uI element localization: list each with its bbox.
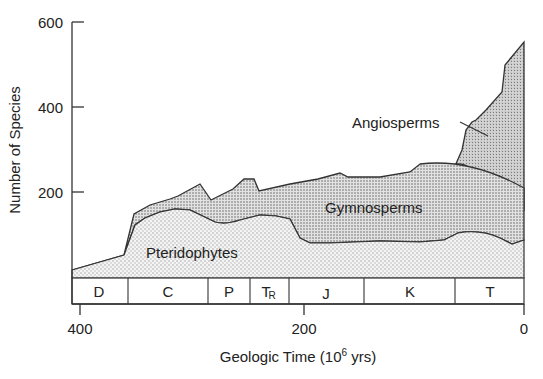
y-axis: 600 400 200 Number of Species	[6, 14, 84, 304]
period-cretaceous: K	[405, 283, 415, 300]
period-tertiary: T	[485, 283, 494, 300]
chart-svg: D C P T R J K T 600 400 200 Number of Sp…	[0, 0, 543, 379]
y-tick-400: 400	[38, 99, 63, 116]
label-gymnosperms: Gymnosperms	[325, 199, 423, 216]
y-axis-label: Number of Species	[6, 86, 23, 214]
period-carboniferous: C	[163, 283, 174, 300]
period-devonian: D	[94, 283, 105, 300]
x-axis: 400 200 0 Geologic Time (106 yrs)	[67, 304, 528, 365]
y-tick-200: 200	[38, 184, 63, 201]
y-tick-600: 600	[38, 14, 63, 31]
period-band: D C P T R J K T	[72, 278, 524, 304]
period-triassic-sub: R	[268, 290, 275, 301]
x-tick-400: 400	[67, 320, 92, 337]
x-axis-label: Geologic Time (106 yrs)	[220, 347, 376, 365]
species-diversity-chart: D C P T R J K T 600 400 200 Number of Sp…	[0, 0, 543, 379]
label-pteridophytes: Pteridophytes	[146, 244, 238, 261]
label-angiosperms: Angiosperms	[352, 114, 440, 131]
x-tick-0: 0	[520, 320, 528, 337]
x-tick-200: 200	[291, 320, 316, 337]
period-jurassic: J	[322, 285, 330, 302]
period-permian: P	[224, 283, 234, 300]
